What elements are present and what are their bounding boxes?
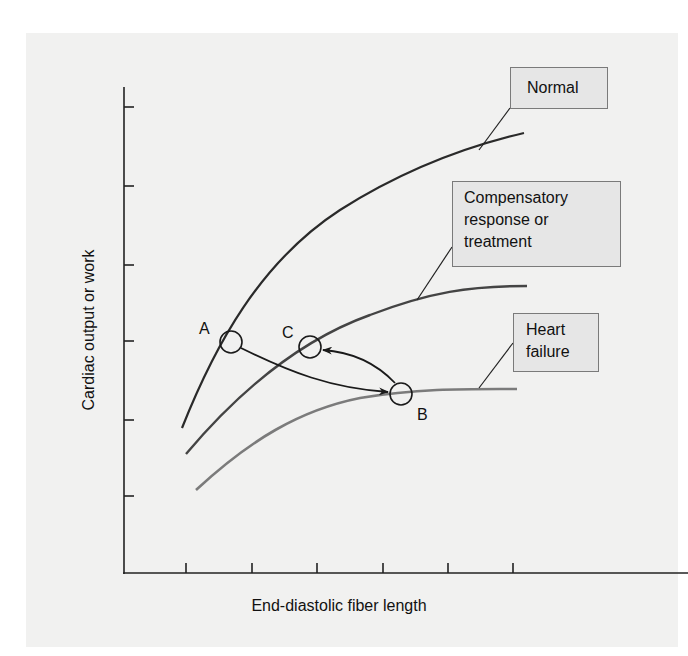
point-b-label: B <box>417 406 428 424</box>
arrow-b-to-c <box>323 350 395 383</box>
compensatory-label-line-1: Compensatory <box>464 187 620 209</box>
heart-failure-label-line-1: Heart <box>526 319 598 341</box>
normal-label: Normal <box>527 79 579 96</box>
x-axis-title-text: End-diastolic fiber length <box>251 597 426 614</box>
arrow-a-to-b <box>241 348 388 392</box>
heart-failure-label-line-2: failure <box>526 341 598 363</box>
x-axis <box>123 563 688 573</box>
point-a-label: A <box>199 320 210 338</box>
compensatory-label-line-2: response or <box>464 209 620 231</box>
point-c-marker <box>299 336 321 358</box>
compensatory-label-box: Compensatory response or treatment <box>452 181 621 267</box>
y-axis-title: Cardiac output or work <box>80 250 98 411</box>
point-c-label: C <box>282 324 294 342</box>
heart-failure-curve <box>196 389 517 490</box>
compensatory-label-line-3: treatment <box>464 231 620 253</box>
x-axis-title: End-diastolic fiber length <box>0 597 688 615</box>
compensatory-curve <box>186 286 527 454</box>
normal-label-box: Normal <box>510 67 608 109</box>
heart-failure-label-box: Heart failure <box>513 313 599 372</box>
heart-failure-leader-line <box>479 343 513 388</box>
normal-leader-line <box>479 108 510 150</box>
y-axis <box>124 87 134 574</box>
normal-curve <box>182 133 524 428</box>
